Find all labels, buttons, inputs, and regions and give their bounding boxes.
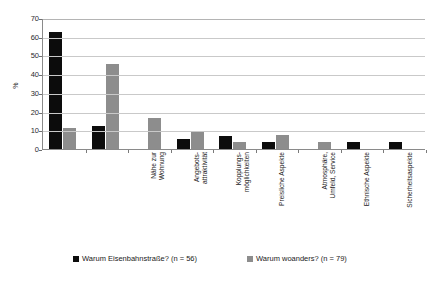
bar-series-a [92,126,105,149]
bar-series-a [347,142,360,149]
bar-series-b [191,132,204,149]
gridline [43,131,425,132]
gridline [43,94,425,95]
x-tick-label: Kopplungs- möglichkeiten [235,152,251,242]
x-tick-label: Atmosphäre, Umfeld, Service [321,152,337,242]
legend-entry-series-b: Warum woanders? (n = 79) [247,254,347,263]
legend-swatch-icon-series-a [73,256,79,262]
x-tick-label: Preisliche Aspekte [278,152,286,242]
page-caption [8,276,428,285]
y-tick-label: 70 [19,15,39,23]
gridline [43,75,425,76]
plot-area [42,19,425,150]
x-tick-label: Angebots- attraktivität [193,152,209,242]
bar-series-b [276,135,289,149]
x-tick-mark [426,150,427,153]
y-tick-label: 60 [19,34,39,42]
bar-series-a [262,142,275,149]
legend-swatch-icon-series-b [247,256,253,262]
gridline [43,38,425,39]
x-tick-label: Sicherheitsaspekte [406,152,414,242]
gridline [43,113,425,114]
bar-series-b [318,142,331,149]
legend-entry-series-a: Warum Eisenbahnstraße? (n = 56) [73,254,197,263]
legend-label-series-b: Warum woanders? (n = 79) [256,254,347,263]
bar-series-b [233,142,246,149]
bar-chart-figure: % 706050403020100 Nähe zur WohnungAngebo… [0,0,436,287]
y-tick-label: 50 [19,52,39,60]
y-tick-label: 10 [19,127,39,135]
x-tick-label: Ethnische Aspekte [363,152,371,242]
bar-series-a [219,136,232,149]
gridline [43,56,425,57]
x-axis-tick-labels: Nähe zur WohnungAngebots- attraktivitätK… [42,152,425,244]
y-axis-tick-labels: 706050403020100 [17,19,39,150]
gridline [43,19,425,20]
bar-series-a [389,142,402,149]
legend-label-series-a: Warum Eisenbahnstraße? (n = 56) [82,254,197,263]
y-tick-label: 40 [19,71,39,79]
bar-series-b [106,64,119,149]
bar-series-b [148,118,161,149]
x-tick-label: Nähe zur Wohnung [150,152,166,242]
chart-legend: Warum Eisenbahnstraße? (n = 56) Warum wo… [55,254,385,268]
bar-series-a [177,139,190,149]
y-tick-label: 0 [19,146,39,154]
y-tick-label: 20 [19,109,39,117]
y-tick-mark [39,150,42,151]
y-tick-label: 30 [19,90,39,98]
